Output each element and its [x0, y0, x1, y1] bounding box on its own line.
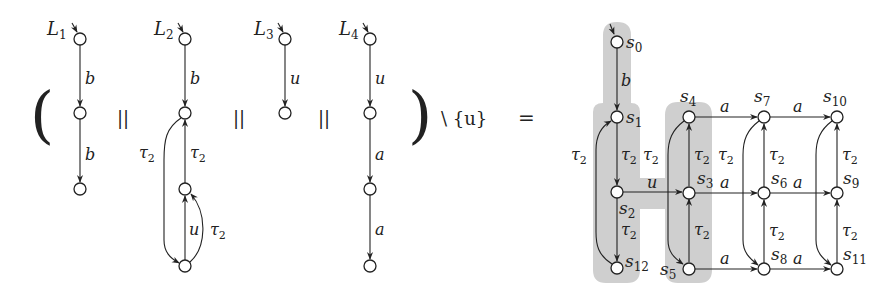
- lts-name-l2: L2: [153, 18, 174, 42]
- diagram-canvas: ( || || || ) \ {u} = L1 b b L2 b τ2 τ2 u…: [0, 0, 896, 300]
- label-a: a: [720, 173, 730, 192]
- parallel-op-3: ||: [318, 107, 330, 129]
- label-b: b: [85, 145, 95, 164]
- state-node: [179, 33, 191, 45]
- label-b: b: [621, 71, 631, 90]
- state-s8: [758, 263, 770, 275]
- state-node: [364, 107, 376, 119]
- state-node: [179, 183, 191, 195]
- state-label-s9: s9: [843, 168, 859, 191]
- state-node: [364, 260, 376, 272]
- label-a: a: [375, 220, 385, 239]
- state-s11: [831, 263, 843, 275]
- edge-l2-tau-curve: [164, 118, 181, 263]
- state-node: [364, 33, 376, 45]
- initial-arrow-icon: [278, 23, 283, 32]
- lts-name-l3: L3: [253, 18, 274, 42]
- label-tau: τ2: [718, 145, 734, 167]
- lts-name-l4: L4: [338, 18, 359, 42]
- state-label-s0: s0: [626, 32, 642, 55]
- label-tau: τ2: [139, 143, 155, 165]
- state-s4: [683, 111, 695, 123]
- label-u: u: [189, 220, 199, 239]
- state-node: [74, 183, 86, 195]
- label-tau: τ2: [643, 145, 659, 167]
- parallel-op-2: ||: [233, 107, 245, 129]
- equals-sign: =: [518, 106, 535, 130]
- lts-name-l1: L1: [46, 18, 67, 42]
- label-tau: τ2: [190, 143, 206, 165]
- state-node: [74, 33, 86, 45]
- state-node: [179, 107, 191, 119]
- state-s5: [683, 263, 695, 275]
- state-node: [179, 260, 191, 272]
- lts-l3: L3 u: [253, 18, 300, 119]
- label-tau: τ2: [842, 221, 858, 243]
- initial-arrow-icon: [178, 23, 183, 32]
- label-tau: τ2: [842, 145, 858, 167]
- state-label-s8: s8: [771, 244, 787, 267]
- label-a: a: [375, 145, 385, 164]
- state-node: [74, 107, 86, 119]
- state-s9: [831, 187, 843, 199]
- parallel-op-1: ||: [117, 107, 129, 129]
- state-s6: [758, 187, 770, 199]
- left-paren: (: [30, 78, 54, 151]
- label-a: a: [793, 97, 803, 116]
- state-node: [364, 183, 376, 195]
- label-u: u: [375, 69, 385, 88]
- result-lts: b τ2 τ2 τ2 u τ2 τ2 τ2 a a a a a a τ2: [571, 22, 867, 283]
- state-s10: [831, 111, 843, 123]
- label-a: a: [793, 173, 803, 192]
- label-b: b: [190, 69, 200, 88]
- label-b: b: [85, 69, 95, 88]
- label-tau: τ2: [210, 220, 226, 242]
- right-paren: ): [408, 78, 432, 151]
- label-u: u: [647, 173, 657, 192]
- lts-l2: L2 b τ2 τ2 u τ2: [139, 18, 226, 272]
- state-node: [279, 33, 291, 45]
- label-tau: τ2: [769, 145, 785, 167]
- label-a: a: [720, 97, 730, 116]
- state-s3: [683, 187, 695, 199]
- state-s2: [611, 186, 623, 198]
- state-label-s7: s7: [754, 86, 770, 109]
- label-u: u: [290, 69, 300, 88]
- state-s0: [611, 36, 623, 48]
- label-tau: τ2: [769, 221, 785, 243]
- state-s12: [611, 262, 623, 274]
- state-label-s11: s11: [843, 244, 867, 267]
- label-a: a: [793, 249, 803, 268]
- initial-arrow-icon: [72, 23, 77, 32]
- state-label-s4: s4: [680, 86, 697, 109]
- initial-arrow-icon: [363, 23, 368, 32]
- state-label-s10: s10: [823, 86, 847, 109]
- label-tau: τ2: [571, 145, 587, 167]
- label-a: a: [720, 249, 730, 268]
- lts-l4: L4 u a a: [338, 18, 385, 272]
- state-node: [279, 107, 291, 119]
- hiding-op: \ {u}: [441, 108, 487, 129]
- state-s1: [611, 111, 623, 123]
- state-label-s6: s6: [771, 168, 787, 191]
- state-s7: [758, 111, 770, 123]
